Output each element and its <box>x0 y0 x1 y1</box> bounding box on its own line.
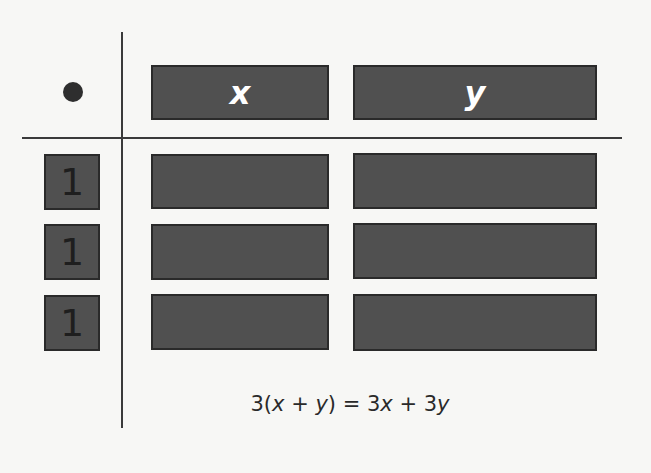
equation-var-y: y <box>437 392 449 416</box>
header-tile-y: y <box>353 65 597 120</box>
equation-var-x: x <box>272 392 284 416</box>
product-tile-x-row-2 <box>151 224 329 280</box>
horizontal-axis-line <box>22 137 622 139</box>
equation: 3(x + y) = 3x + 3y <box>180 392 520 416</box>
equation-part: ) = 3 <box>328 392 381 416</box>
multiplication-dot-icon <box>63 82 83 102</box>
equation-part: + 3 <box>393 392 437 416</box>
equation-part: + <box>284 392 315 416</box>
header-tile-y-label: y <box>465 74 486 112</box>
unit-tile-label: 1 <box>60 301 84 345</box>
product-tile-y-row-1 <box>353 153 597 209</box>
product-tile-x-row-3 <box>151 294 329 350</box>
vertical-axis-line <box>121 32 123 428</box>
unit-tile-row-1: 1 <box>44 154 100 210</box>
unit-tile-label: 1 <box>60 160 84 204</box>
unit-tile-row-3: 1 <box>44 295 100 351</box>
unit-tile-row-2: 1 <box>44 224 100 280</box>
header-tile-x: x <box>151 65 329 120</box>
equation-var-y: y <box>315 392 327 416</box>
header-tile-x-label: x <box>230 74 251 112</box>
equation-var-x: x <box>380 392 392 416</box>
unit-tile-label: 1 <box>60 230 84 274</box>
product-tile-x-row-1 <box>151 154 329 209</box>
product-tile-y-row-3 <box>353 294 597 351</box>
product-tile-y-row-2 <box>353 223 597 279</box>
equation-part: 3( <box>250 392 272 416</box>
